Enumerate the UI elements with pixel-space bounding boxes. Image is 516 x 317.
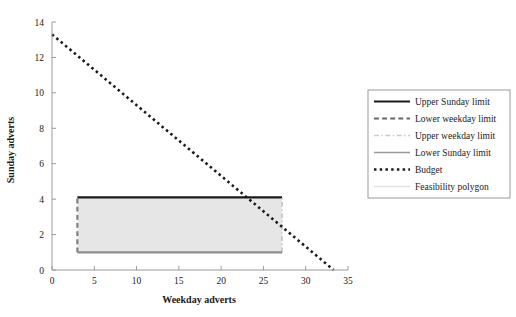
feasibility-polygon [77,197,282,252]
x-tick-label: 35 [343,276,353,286]
y-tick-label: 12 [35,53,45,63]
y-tick-label: 2 [39,230,44,240]
linear-programming-chart: 0510152025303502468101214 Weekday advert… [0,0,516,317]
legend-label: Lower Sunday limit [415,148,491,158]
chart-legend: Upper Sunday limitLower weekday limitUpp… [368,90,510,198]
x-tick-label: 30 [301,276,311,286]
x-tick-label: 5 [92,276,97,286]
y-tick-label: 0 [39,266,44,276]
y-tick-label: 8 [39,124,44,134]
x-tick-label: 0 [50,276,55,286]
legend-label: Upper weekday limit [415,131,496,141]
x-tick-label: 10 [132,276,142,286]
y-tick-label: 10 [35,88,45,98]
x-tick-label: 15 [174,276,184,286]
legend-label: Feasibility polygon [415,182,489,192]
chart-container: 0510152025303502468101214 Weekday advert… [0,0,516,317]
y-tick-label: 14 [35,18,45,28]
legend-label: Budget [415,165,443,175]
x-axis-title: Weekday adverts [162,294,236,305]
x-tick-label: 25 [259,276,269,286]
legend-label: Upper Sunday limit [415,97,490,107]
y-tick-label: 6 [39,159,44,169]
legend-label: Lower weekday limit [415,114,497,124]
y-axis-title: Sunday adverts [5,117,16,184]
x-tick-label: 20 [216,276,226,286]
y-tick-label: 4 [39,195,44,205]
